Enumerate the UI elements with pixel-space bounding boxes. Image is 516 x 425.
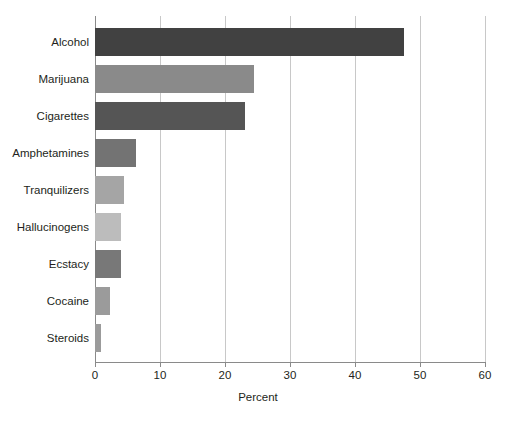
bar [95, 250, 121, 278]
x-tick-mark [225, 362, 226, 367]
bar-row [95, 28, 485, 56]
x-tick-label: 50 [414, 369, 427, 381]
bar [95, 102, 245, 130]
category-label: Alcohol [3, 28, 89, 56]
x-tick-mark [420, 362, 421, 367]
category-label: Tranquilizers [3, 176, 89, 204]
x-tick-mark [290, 362, 291, 367]
category-label: Hallucinogens [3, 213, 89, 241]
x-tick-mark [355, 362, 356, 367]
gridline-60 [485, 16, 486, 362]
bar [95, 65, 254, 93]
x-tick-label: 60 [479, 369, 492, 381]
x-tick-mark [95, 362, 96, 367]
x-tick-mark [485, 362, 486, 367]
x-tick-label: 20 [219, 369, 232, 381]
bar-row [95, 139, 485, 167]
x-axis-title: Percent [0, 391, 516, 403]
category-label: Ecstacy [3, 250, 89, 278]
x-tick-label: 30 [284, 369, 297, 381]
category-label: Cocaine [3, 287, 89, 315]
bar-row [95, 250, 485, 278]
category-axis-labels: AlcoholMarijuanaCigarettesAmphetaminesTr… [0, 16, 89, 362]
bar [95, 176, 124, 204]
bar-row [95, 287, 485, 315]
bar-row [95, 213, 485, 241]
bar-row [95, 176, 485, 204]
category-label: Steroids [3, 324, 89, 352]
bar-chart: AlcoholMarijuanaCigarettesAmphetaminesTr… [0, 0, 516, 425]
bar [95, 139, 136, 167]
bar [95, 287, 110, 315]
x-tick-label: 40 [349, 369, 362, 381]
bar-row [95, 65, 485, 93]
category-label: Amphetamines [3, 139, 89, 167]
bar-row [95, 324, 485, 352]
x-tick-label: 0 [92, 369, 98, 381]
bar [95, 324, 101, 352]
x-tick-label: 10 [154, 369, 167, 381]
plot-area [95, 16, 485, 362]
category-label: Cigarettes [3, 102, 89, 130]
category-label: Marijuana [3, 65, 89, 93]
bar-row [95, 102, 485, 130]
x-tick-mark [160, 362, 161, 367]
bar [95, 213, 121, 241]
bar [95, 28, 404, 56]
